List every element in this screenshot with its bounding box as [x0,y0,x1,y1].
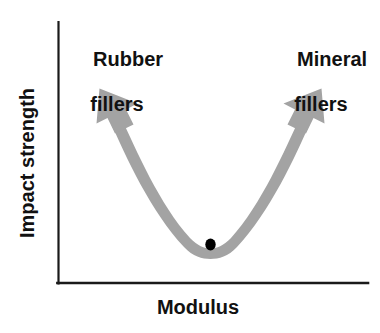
minimum-point-marker [205,239,215,251]
y-axis-label: Impact strength [16,48,42,278]
annotation-rubber-fillers-line1: Rubber [93,48,163,70]
annotation-mineral-fillers-line2: fillers [266,93,376,115]
annotation-rubber-fillers: Rubber fillers [62,26,172,160]
annotation-mineral-fillers: Mineral fillers [266,26,376,160]
annotation-mineral-fillers-line1: Mineral [297,48,367,70]
x-axis-label: Modulus [58,296,338,318]
impact-strength-vs-modulus-figure: Impact strength Modulus Rubber fillers M… [0,0,380,333]
annotation-rubber-fillers-line2: fillers [62,93,172,115]
